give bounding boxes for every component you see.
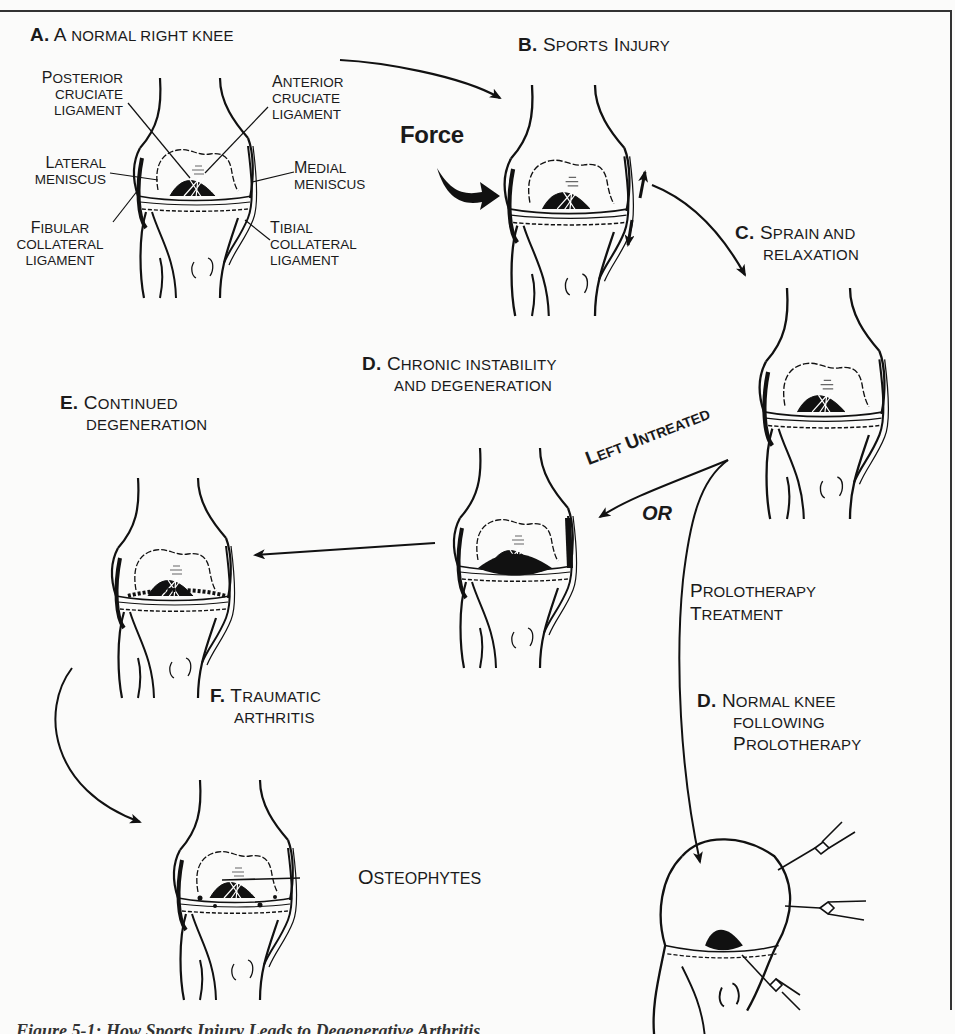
force-label: Force (400, 122, 464, 149)
panel-d-chronic-title: D. CHRONIC INSTABILITY AND DEGENERATION (362, 353, 557, 396)
label-medial-meniscus: MEDIAL MENISCUS (294, 158, 365, 193)
panel-f-title: F. TRAUMATIC ARTHRITIS (210, 685, 321, 728)
panel-e-title: E. CONTINUED DEGENERATION (60, 392, 207, 435)
label-osteophytes: OSTEOPHYTES (358, 866, 481, 888)
panel-d-normal-title: D. NORMAL KNEE FOLLOWING PROLOTHERAPY (697, 690, 861, 754)
label-fibular-collateral-ligament: FIBULAR COLLATERAL LIGAMENT (10, 218, 110, 270)
label-tibial-collateral-ligament: TIBIAL COLLATERAL LIGAMENT (270, 218, 357, 270)
prolotherapy-treatment-label: PROLOTHERAPY TREATMENT (690, 580, 816, 626)
or-label: OR (642, 502, 672, 524)
figure-caption: Figure 5-1: How Sports Injury Leads to D… (16, 1018, 480, 1034)
label-lateral-meniscus: LATERAL MENISCUS (18, 153, 106, 188)
panel-b-title: B. SPORTS INJURY (518, 34, 670, 55)
label-anterior-cruciate-ligament: ANTERIOR CRUCIATE LIGAMENT (272, 72, 343, 124)
panel-c-title: C. SPRAIN AND RELAXATION (735, 222, 859, 265)
label-posterior-cruciate-ligament: POSTERIOR CRUCIATE LIGAMENT (18, 68, 123, 120)
panel-a-title: A. A NORMAL RIGHT KNEE (30, 24, 234, 45)
